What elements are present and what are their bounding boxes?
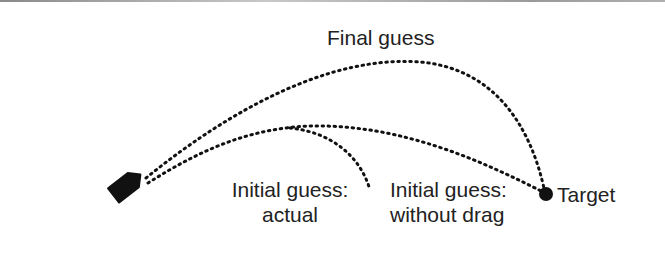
target-dot-icon — [539, 187, 553, 201]
initial-guess-without-drag-line1: Initial guess: — [390, 177, 507, 202]
target-label: Target — [557, 182, 615, 207]
projectile-tag-icon — [108, 167, 146, 202]
initial-guess-without-drag-line2: without drag — [390, 202, 507, 227]
initial-guess-actual-label: Initial guess: actual — [220, 177, 360, 227]
final-guess-label: Final guess — [327, 25, 434, 50]
initial-guess-actual-line2: actual — [220, 202, 360, 227]
initial-guess-without-drag-label: Initial guess: without drag — [390, 177, 507, 227]
initial-guess-actual-line1: Initial guess: — [220, 177, 360, 202]
